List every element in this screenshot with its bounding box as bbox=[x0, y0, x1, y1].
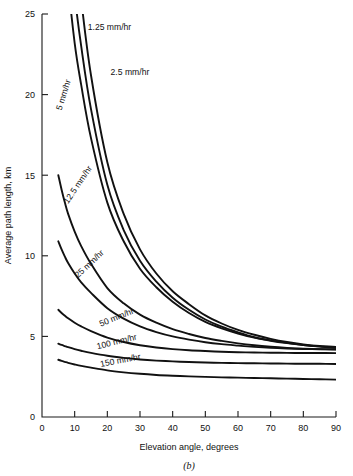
y-tick-label: 15 bbox=[25, 171, 35, 181]
x-tick-label: 20 bbox=[102, 423, 112, 433]
y-axis-title: Average path length, km bbox=[3, 167, 13, 264]
x-tick-label: 70 bbox=[266, 423, 276, 433]
y-tick-label: 20 bbox=[25, 90, 35, 100]
x-tick-label: 40 bbox=[168, 423, 178, 433]
x-tick-label: 80 bbox=[298, 423, 308, 433]
chart-background bbox=[0, 0, 353, 476]
x-axis-title: Elevation angle, degrees bbox=[139, 442, 239, 452]
curve-label: 2.5 mm/hr bbox=[111, 67, 150, 77]
y-tick-label: 25 bbox=[25, 9, 35, 19]
figure-container: 05101520250102030405060708090 1.25 mm/hr… bbox=[0, 0, 353, 476]
y-tick-label: 0 bbox=[30, 412, 35, 422]
y-tick-label: 10 bbox=[25, 251, 35, 261]
average-path-length-chart: 05101520250102030405060708090 1.25 mm/hr… bbox=[0, 0, 353, 476]
x-tick-label: 10 bbox=[70, 423, 80, 433]
x-tick-label: 60 bbox=[233, 423, 243, 433]
x-tick-label: 50 bbox=[200, 423, 210, 433]
x-tick-label: 30 bbox=[135, 423, 145, 433]
x-tick-label: 0 bbox=[39, 423, 44, 433]
figure-caption: (b) bbox=[183, 460, 195, 472]
curve-label: 1.25 mm/hr bbox=[88, 22, 132, 32]
x-tick-label: 90 bbox=[331, 423, 341, 433]
y-tick-label: 5 bbox=[30, 332, 35, 342]
